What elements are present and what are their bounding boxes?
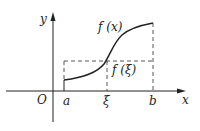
tick-label-b: b xyxy=(149,94,157,108)
tick-label-xi: ξ xyxy=(103,94,111,108)
x-axis-label: x xyxy=(182,93,189,107)
mean-value-diagram: y x O f (x) f (ξ) a ξ b xyxy=(0,0,200,131)
diagram-canvas: y x O f (x) f (ξ) a ξ b xyxy=(0,0,200,131)
mean-value-label: f (ξ) xyxy=(111,63,137,77)
tick-label-a: a xyxy=(63,94,70,108)
curve-label: f (x) xyxy=(97,20,123,34)
y-axis-label: y xyxy=(39,12,47,26)
origin-label: O xyxy=(37,93,47,107)
y-axis-arrow-icon xyxy=(51,12,56,21)
